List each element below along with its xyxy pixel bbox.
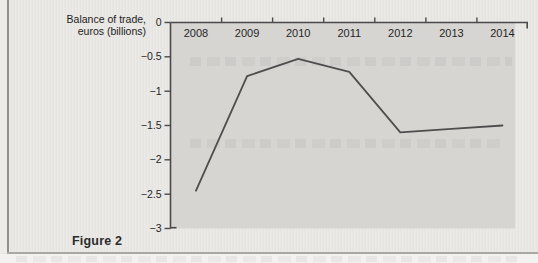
figure-caption: Figure 2 (72, 234, 122, 248)
y-tick-label: −0.5 (141, 50, 162, 62)
x-tick-label: 2010 (286, 27, 310, 39)
x-tick-label: 2013 (439, 27, 463, 39)
x-tick-label: 2008 (184, 27, 208, 39)
y-tick-label: −1.5 (141, 119, 162, 131)
x-tick-label: 2014 (490, 27, 514, 39)
y-tick-label: −1 (150, 85, 162, 97)
page-below-figure (0, 254, 538, 263)
y-tick-label: −3 (150, 222, 162, 234)
y-tick-label: −2 (150, 153, 162, 165)
x-tick-label: 2009 (235, 27, 259, 39)
x-tick-label: 2011 (337, 27, 361, 39)
y-tick-label: −2.5 (141, 188, 162, 200)
balance-of-trade-chart: 20082009201020112012201320140−0.5−1−1.5−… (0, 0, 538, 263)
scanned-figure-page: Balance of trade, euros (billions) 20082… (0, 0, 538, 263)
x-tick-label: 2012 (388, 27, 412, 39)
y-tick-label: 0 (156, 16, 162, 28)
plot-area (171, 23, 516, 229)
